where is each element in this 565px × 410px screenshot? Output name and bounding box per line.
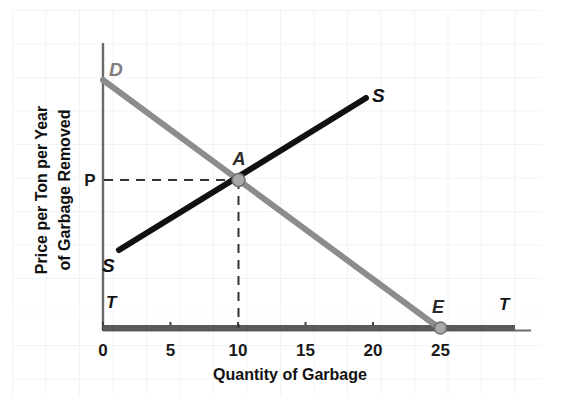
supply-curve-top-label: S (372, 85, 385, 106)
point-e-label: E (432, 297, 445, 317)
x-tick-label-0: 0 (98, 341, 107, 360)
x-tick-label-20: 20 (364, 341, 383, 360)
supply-curve-bottom-label: S (102, 255, 115, 276)
point-a-marker (232, 174, 245, 187)
background-grid (12, 10, 542, 395)
point-a-label: A (232, 149, 246, 169)
chart-figure: 0 5 10 15 20 25 D S S T T A E P Quantity… (0, 0, 565, 410)
x-axis-title: Quantity of Garbage (213, 366, 367, 383)
price-p-label: P (84, 171, 95, 190)
x-tick-label-5: 5 (166, 341, 175, 360)
x-tick-label-10: 10 (229, 341, 248, 360)
tax-line-right-label: T (499, 295, 511, 314)
y-axis-title-line1: Price per Ton per Year (33, 106, 50, 274)
y-axis-title-line2: of Garbage Removed (56, 110, 73, 271)
x-tick-label-25: 25 (431, 341, 450, 360)
tax-line-left-label: T (106, 293, 118, 312)
x-tick-label-15: 15 (296, 341, 315, 360)
point-e-marker (435, 322, 447, 334)
chart-canvas: 0 5 10 15 20 25 D S S T T A E P Quantity… (0, 0, 565, 410)
demand-curve-label: D (109, 59, 123, 80)
